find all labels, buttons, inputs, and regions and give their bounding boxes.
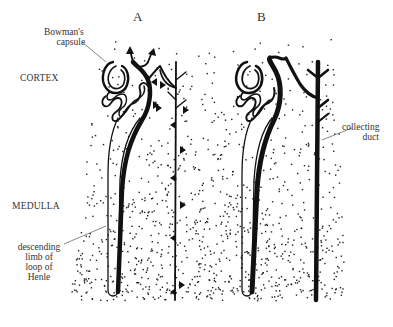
leader-descending-limb	[64, 226, 106, 244]
label-limb-line2: limb of	[16, 252, 62, 262]
region-label-cortex: CORTEX	[20, 73, 59, 83]
label-collecting-duct: collecting duct	[342, 122, 379, 142]
label-descending-limb: descending limb of loop of Henle	[16, 242, 62, 282]
label-collecting-line1: collecting	[342, 122, 379, 132]
nephron-diagram: A B CORTEX MEDULLA Bowman's capsule coll…	[0, 0, 393, 327]
interstitial-dots	[72, 39, 345, 301]
panel-label-b: B	[257, 12, 266, 22]
label-limb-line4: Henle	[16, 272, 62, 282]
region-label-medulla: MEDULLA	[12, 201, 60, 211]
collecting-duct-b	[316, 62, 318, 300]
nephron-b	[236, 57, 328, 300]
label-collecting-line2: duct	[352, 132, 389, 142]
ascending-limb-a	[118, 62, 150, 292]
panel-label-a: A	[133, 12, 142, 22]
label-bowmans-line2: capsule	[51, 37, 91, 47]
label-bowmans-line1: Bowman's	[44, 27, 84, 37]
label-limb-line1: descending	[16, 242, 62, 252]
label-limb-line3: loop of	[16, 262, 62, 272]
label-bowmans-capsule: Bowman's capsule	[44, 27, 84, 47]
